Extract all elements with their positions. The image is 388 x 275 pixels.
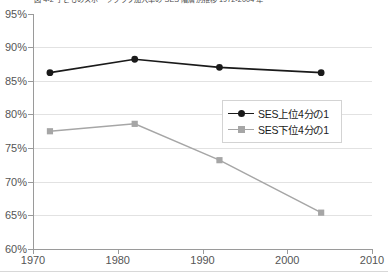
legend-item-ses-lower: SES下位4分の1 — [228, 121, 336, 137]
data-point-marker — [131, 56, 138, 63]
x-axis-tick-label: 2000 — [275, 254, 299, 266]
data-point-marker — [47, 69, 54, 76]
legend-key-circle-icon — [228, 107, 254, 119]
data-point-marker — [318, 69, 325, 76]
legend-label-ses-lower: SES下位4分の1 — [258, 122, 329, 137]
data-point-marker — [216, 64, 223, 71]
y-axis-tick — [28, 182, 33, 183]
x-axis-tick-label: 2010 — [360, 254, 384, 266]
x-axis-tick-label: 1980 — [106, 254, 130, 266]
series-line — [50, 59, 321, 72]
y-axis-tick — [28, 148, 33, 149]
y-axis-tick — [28, 114, 33, 115]
legend-label-ses-upper: SES上位4分の1 — [258, 106, 329, 121]
x-axis-tick-label: 1990 — [190, 254, 214, 266]
legend-item-ses-upper: SES上位4分の1 — [228, 105, 336, 121]
chart-container: 図 4-2 子どものスポーツクラブ加入率の SES 階層別推移 1972-200… — [0, 0, 388, 275]
data-point-marker — [216, 157, 222, 163]
data-point-marker — [47, 128, 53, 134]
footer-rule — [0, 271, 388, 272]
y-axis-tick — [28, 81, 33, 82]
data-point-marker — [132, 121, 138, 127]
x-axis-tick-label: 1970 — [21, 254, 45, 266]
y-axis-tick — [28, 215, 33, 216]
data-point-marker — [318, 210, 324, 216]
legend-key-square-icon — [228, 123, 254, 135]
chart-legend: SES上位4分の1 SES下位4分の1 — [222, 100, 342, 143]
series-ses-upper — [47, 56, 325, 76]
y-axis-tick — [28, 14, 33, 15]
y-axis-tick — [28, 47, 33, 48]
